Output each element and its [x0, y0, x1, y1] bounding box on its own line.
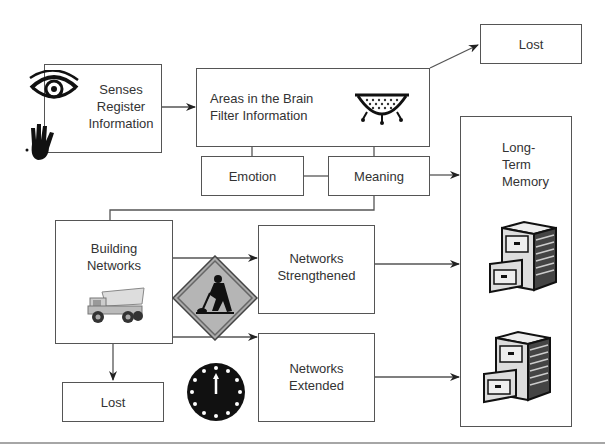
meaning-label: Meaning: [328, 168, 430, 185]
extended-line-1: Networks: [258, 360, 375, 377]
senses-label: Senses Register Information: [76, 81, 166, 132]
building-line-2: Networks: [55, 257, 173, 274]
memory-flow-diagram: Senses Register Information Areas in the…: [0, 0, 605, 448]
colander-icon: [353, 92, 411, 126]
clock-icon: [186, 362, 246, 422]
filter-line-2: Filter Information: [210, 107, 340, 124]
filing-cabinet-icon: [478, 330, 554, 410]
strengthened-line-2: Strengthened: [258, 267, 375, 284]
long-term-memory-label: Long- Term Memory: [502, 139, 572, 190]
eye-icon: [28, 70, 80, 106]
networks-strengthened-label: Networks Strengthened: [258, 250, 375, 284]
filter-label: Areas in the Brain Filter Information: [210, 90, 340, 124]
dump-truck-icon: [82, 282, 148, 326]
ltm-line-2: Term: [502, 156, 572, 173]
construction-worker-sign-icon: [172, 255, 258, 341]
strengthened-line-1: Networks: [258, 250, 375, 267]
extended-line-2: Extended: [258, 377, 375, 394]
building-networks-label: Building Networks: [55, 240, 173, 274]
ltm-line-1: Long-: [502, 139, 572, 156]
lost-top-label: Lost: [480, 36, 582, 53]
senses-line-2: Register: [76, 98, 166, 115]
filing-cabinet-icon: [484, 220, 560, 300]
building-line-1: Building: [55, 240, 173, 257]
emotion-label: Emotion: [201, 168, 304, 185]
networks-extended-label: Networks Extended: [258, 360, 375, 394]
filter-line-1: Areas in the Brain: [210, 90, 340, 107]
lost-bottom-label: Lost: [62, 394, 164, 411]
hand-icon: [24, 120, 60, 162]
senses-line-3: Information: [76, 115, 166, 132]
ltm-line-3: Memory: [502, 173, 572, 190]
senses-line-1: Senses: [76, 81, 166, 98]
